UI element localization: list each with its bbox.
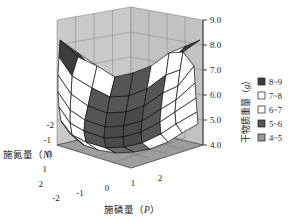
legend-swatch-8-9: [258, 78, 265, 85]
surface-facet: [107, 96, 129, 113]
y-axis: -2 -1 0 1 2 施氮量（N）: [3, 120, 59, 189]
z-tick-label-2: 6.0: [210, 90, 222, 100]
surface-chart-svg: 4.0 5.0 6.0 7.0 8.0 9.0 -2 -1 0 1 2 施磷量（…: [0, 0, 293, 221]
legend: 干物质重量（g） 8~9 7~8 6~7 5~6 4~5: [240, 76, 282, 144]
surface-facet: [104, 126, 124, 138]
x-tick-label-0: -2: [52, 193, 60, 203]
y-tick-label-1: -1: [44, 135, 52, 145]
z-tick-label-4: 8.0: [210, 40, 222, 50]
z-tick-label-3: 7.0: [210, 65, 222, 75]
y-tick-label-3: 1: [43, 164, 48, 174]
y-tick-label-4: 2: [39, 179, 44, 189]
surface-facet: [104, 137, 124, 148]
y-axis-title-paren-open: （: [33, 149, 43, 160]
z-tick-label-5: 9.0: [210, 15, 222, 25]
surface-chart-figure: 4.0 5.0 6.0 7.0 8.0 9.0 -2 -1 0 1 2 施磷量（…: [0, 0, 293, 221]
x-axis-title: 施磷量（P）: [104, 204, 160, 215]
legend-title-paren-open: （: [241, 89, 251, 98]
y-axis-title-cjk: 施氮量: [3, 149, 33, 160]
legend-entry-5-6[interactable]: 5~6: [258, 119, 282, 129]
legend-title-cjk: 干物质重量: [240, 98, 251, 143]
x-tick-label-1: -1: [76, 188, 84, 198]
x-axis-title-paren-close: ）: [150, 204, 160, 215]
legend-label-5-6: 5~6: [269, 119, 282, 129]
x-axis: -2 -1 0 1 2 施磷量（P）: [52, 173, 162, 215]
legend-entry-6-7[interactable]: 6~7: [258, 105, 282, 115]
z-axis-ticks: [203, 20, 207, 145]
legend-label-8-9: 8~9: [269, 77, 282, 87]
legend-swatch-7-8: [258, 92, 265, 99]
x-tick-label-3: 1: [131, 178, 136, 188]
legend-label-4-5: 4~5: [269, 133, 282, 143]
y-axis-title: 施氮量（N）: [3, 149, 59, 160]
legend-title: 干物质重量（g）: [240, 76, 251, 144]
z-tick-label-0: 4.0: [210, 140, 222, 150]
z-axis: 4.0 5.0 6.0 7.0 8.0 9.0: [203, 15, 222, 150]
legend-title-paren-close: ）: [241, 76, 251, 85]
surface-facet: [105, 112, 126, 127]
legend-label-6-7: 6~7: [269, 105, 282, 115]
z-tick-label-1: 5.0: [210, 115, 222, 125]
legend-swatch-4-5: [258, 134, 265, 141]
x-tick-label-4: 2: [158, 173, 163, 183]
legend-swatch-6-7: [258, 106, 265, 113]
y-tick-label-0: -2: [47, 120, 55, 130]
x-tick-label-2: 0: [105, 183, 110, 193]
legend-label-7-8: 7~8: [269, 91, 282, 101]
legend-entry-4-5[interactable]: 4~5: [258, 133, 282, 143]
x-axis-title-cjk: 施磷量: [104, 204, 134, 215]
legend-entry-7-8[interactable]: 7~8: [258, 91, 282, 101]
legend-entry-8-9[interactable]: 8~9: [258, 77, 282, 87]
legend-swatch-5-6: [258, 120, 265, 127]
x-axis-title-paren-open: （: [134, 204, 144, 215]
y-axis-title-paren-close: ）: [49, 149, 59, 160]
